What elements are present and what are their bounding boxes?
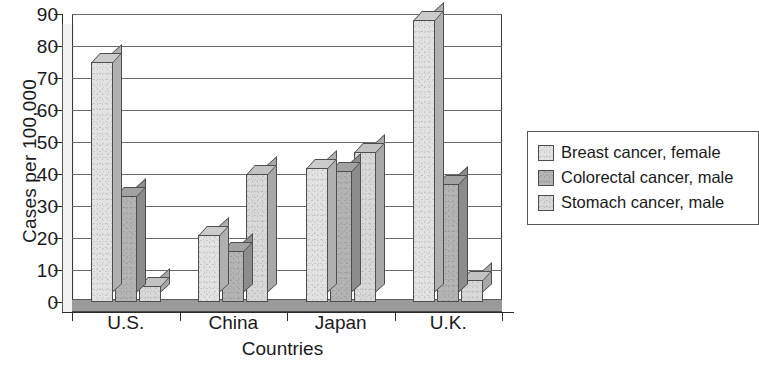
y-tick-label: 90 <box>24 5 58 24</box>
x-tick-mark <box>395 312 396 321</box>
y-axis-tick-labels: 0102030405060708090 <box>12 0 58 370</box>
bar-side-face <box>351 153 361 293</box>
chart-legend: Breast cancer, femaleColorectal cancer, … <box>527 131 759 225</box>
bar <box>413 20 435 302</box>
legend-item: Breast cancer, female <box>538 140 748 165</box>
plot-frame-right <box>501 14 502 302</box>
bar-front-face <box>306 168 328 302</box>
bar-side-face <box>327 150 337 293</box>
legend-item: Colorectal cancer, male <box>538 165 748 190</box>
y-tick-label: 20 <box>24 229 58 248</box>
bar-front-face <box>198 235 220 302</box>
legend-item-label: Breast cancer, female <box>561 144 721 161</box>
legend-item-label: Stomach cancer, male <box>561 194 724 211</box>
bar <box>306 168 328 302</box>
x-tick-mark <box>502 312 503 321</box>
plot-frame-left <box>72 14 73 302</box>
y-tick-label: 0 <box>24 293 58 312</box>
x-tick-label: China <box>208 312 258 334</box>
legend-swatch-icon <box>538 170 554 186</box>
x-tick-label: U.S. <box>107 312 144 334</box>
legend-item: Stomach cancer, male <box>538 190 748 215</box>
y-tick-mark <box>54 14 63 15</box>
bar-side-face <box>112 44 122 293</box>
bar-front-face <box>91 62 113 302</box>
y-tick-label: 80 <box>24 37 58 56</box>
x-tick-label: Japan <box>315 312 367 334</box>
y-tick-label: 40 <box>24 165 58 184</box>
bar-front-face <box>413 20 435 302</box>
bar-side-face <box>458 166 468 293</box>
bar <box>139 286 161 302</box>
y-tick-label: 50 <box>24 133 58 152</box>
y-tick-label: 60 <box>24 101 58 120</box>
bar-side-face <box>267 156 277 293</box>
x-tick-mark <box>180 312 181 321</box>
y-tick-label: 70 <box>24 69 58 88</box>
x-tick-mark <box>72 312 73 321</box>
legend-swatch-icon <box>538 195 554 211</box>
bar <box>198 235 220 302</box>
legend-item-label: Colorectal cancer, male <box>561 169 733 186</box>
legend-swatch-icon <box>538 145 554 161</box>
y-tick-label: 30 <box>24 197 58 216</box>
bar <box>91 62 113 302</box>
x-axis-title: Countries <box>60 338 505 360</box>
bar-side-face <box>375 134 385 293</box>
plot-area <box>72 14 502 302</box>
bar-front-face <box>139 286 161 302</box>
y-tick-label: 10 <box>24 261 58 280</box>
x-tick-label: U.K. <box>430 312 467 334</box>
x-tick-mark <box>287 312 288 321</box>
bar-side-face <box>434 2 444 293</box>
